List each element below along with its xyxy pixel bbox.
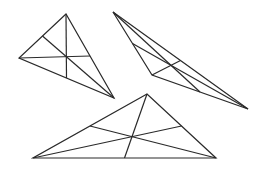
median-line xyxy=(133,44,249,110)
median-line xyxy=(19,56,90,58)
triangle-outline xyxy=(33,94,216,158)
diagram-canvas xyxy=(0,0,267,172)
triangle-2 xyxy=(113,12,248,109)
triangle-1 xyxy=(19,14,114,98)
triangle-3 xyxy=(33,94,216,158)
median-line xyxy=(113,12,200,92)
median-line xyxy=(66,14,67,78)
triangles-diagram xyxy=(0,0,267,172)
median-line xyxy=(125,94,148,158)
median-line xyxy=(43,36,115,98)
